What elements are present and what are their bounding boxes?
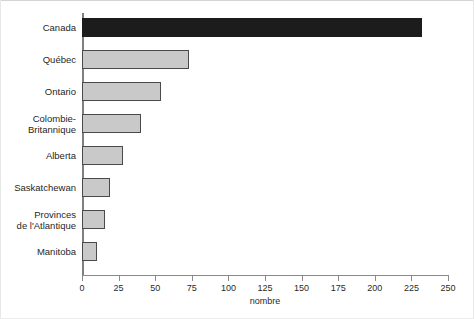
- category-label: Canada: [0, 22, 76, 33]
- category-label-line: Manitoba: [0, 246, 76, 257]
- value-axis-tick: [302, 276, 303, 281]
- category-label: Alberta: [0, 150, 76, 161]
- value-axis-tick-label: 0: [79, 283, 84, 294]
- bar-chart: 0255075100125150175200225250 CanadaQuébe…: [0, 0, 474, 319]
- bar: [82, 146, 123, 165]
- bar: [82, 18, 422, 37]
- value-axis-tick-label: 100: [221, 283, 236, 294]
- value-axis-tick: [448, 276, 449, 281]
- value-axis-tick: [192, 276, 193, 281]
- category-label-line: Colombie-: [0, 113, 76, 124]
- category-label-line: Ontario: [0, 86, 76, 97]
- value-axis-tick-label: 75: [187, 283, 197, 294]
- category-label: Saskatchewan: [0, 182, 76, 193]
- category-label-line: Britannique: [0, 124, 76, 135]
- bar: [82, 50, 189, 69]
- value-axis-tick-label: 200: [367, 283, 382, 294]
- category-label: Ontario: [0, 86, 76, 97]
- value-axis-tick-label: 125: [257, 283, 272, 294]
- value-axis-tick: [82, 276, 83, 281]
- category-label: Québec: [0, 54, 76, 65]
- category-label-line: de l'Atlantique: [0, 220, 76, 231]
- category-label: Colombie-Britannique: [0, 113, 76, 135]
- category-label-line: Canada: [0, 22, 76, 33]
- category-label-line: Provinces: [0, 209, 76, 220]
- value-axis-tick: [155, 276, 156, 281]
- plot-area: 0255075100125150175200225250 CanadaQuébe…: [0, 0, 474, 319]
- value-axis-tick: [228, 276, 229, 281]
- category-label-line: Alberta: [0, 150, 76, 161]
- value-axis-tick: [265, 276, 266, 281]
- bar: [82, 178, 110, 197]
- category-label: Provincesde l'Atlantique: [0, 209, 76, 231]
- bar: [82, 210, 105, 229]
- value-axis-tick-label: 150: [294, 283, 309, 294]
- category-label: Manitoba: [0, 246, 76, 257]
- value-axis-tick-label: 25: [114, 283, 124, 294]
- value-axis-tick-label: 250: [440, 283, 455, 294]
- category-label-line: Saskatchewan: [0, 182, 76, 193]
- value-axis-tick-label: 225: [404, 283, 419, 294]
- bar: [82, 114, 141, 133]
- category-label-line: Québec: [0, 54, 76, 65]
- value-axis-tick-label: 175: [331, 283, 346, 294]
- value-axis-tick: [338, 276, 339, 281]
- bar: [82, 82, 161, 101]
- value-axis-title: nombre: [250, 296, 281, 307]
- value-axis-tick: [375, 276, 376, 281]
- bar: [82, 242, 97, 261]
- value-axis-tick-label: 50: [150, 283, 160, 294]
- value-axis-tick: [411, 276, 412, 281]
- value-axis-tick: [119, 276, 120, 281]
